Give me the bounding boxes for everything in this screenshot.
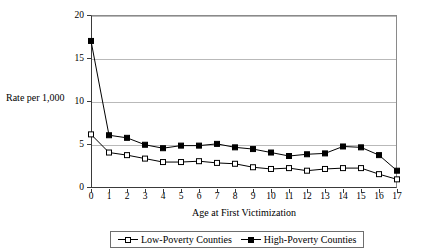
x-tick-label: 0 <box>82 192 100 202</box>
legend-item-low-poverty[interactable]: Low-Poverty Counties <box>118 234 232 245</box>
x-tick-mark <box>307 189 308 193</box>
legend-label: High-Poverty Counties <box>264 234 357 245</box>
x-tick-mark <box>361 189 362 193</box>
x-tick-label: 7 <box>208 192 226 202</box>
chart-container: Rate per 1,000 20 15 10 5 0 012345678910… <box>0 0 433 252</box>
x-tick-mark <box>127 189 128 193</box>
gridline <box>92 16 396 17</box>
x-tick-mark <box>181 189 182 193</box>
x-tick-mark <box>109 189 110 193</box>
x-tick-mark <box>271 189 272 193</box>
y-tick-mark <box>87 187 91 188</box>
y-tick-label: 5 <box>58 140 84 150</box>
plot-area <box>91 15 397 188</box>
x-tick-mark <box>325 189 326 193</box>
x-tick-label: 16 <box>370 192 388 202</box>
filled-square-marker-icon <box>241 235 261 244</box>
x-tick-mark <box>253 189 254 193</box>
x-tick-mark <box>217 189 218 193</box>
y-tick-label: 10 <box>58 97 84 107</box>
x-tick-mark <box>145 189 146 193</box>
y-tick-label: 0 <box>58 183 84 193</box>
x-tick-label: 6 <box>190 192 208 202</box>
x-tick-mark <box>199 189 200 193</box>
y-tick-label: 20 <box>58 11 84 21</box>
x-tick-label: 13 <box>316 192 334 202</box>
legend-item-high-poverty[interactable]: High-Poverty Counties <box>241 234 357 245</box>
y-axis-label: Rate per 1,000 <box>6 92 65 103</box>
y-tick-mark <box>87 101 91 102</box>
x-tick-label: 11 <box>280 192 298 202</box>
x-tick-label: 9 <box>244 192 262 202</box>
x-tick-label: 5 <box>172 192 190 202</box>
y-tick-mark <box>87 15 91 16</box>
x-tick-label: 14 <box>334 192 352 202</box>
x-tick-label: 2 <box>118 192 136 202</box>
open-square-marker-icon <box>118 235 138 244</box>
y-tick-mark <box>87 144 91 145</box>
x-tick-label: 12 <box>298 192 316 202</box>
x-tick-mark <box>343 189 344 193</box>
legend-label: Low-Poverty Counties <box>141 234 232 245</box>
x-tick-label: 8 <box>226 192 244 202</box>
x-tick-mark <box>91 189 92 193</box>
gridline <box>92 59 396 60</box>
x-tick-mark <box>163 189 164 193</box>
x-tick-label: 1 <box>100 192 118 202</box>
gridline <box>92 102 396 103</box>
x-tick-mark <box>235 189 236 193</box>
chart-legend: Low-Poverty Counties High-Poverty Counti… <box>110 231 364 248</box>
x-tick-mark <box>397 189 398 193</box>
x-tick-label: 4 <box>154 192 172 202</box>
x-tick-label: 15 <box>352 192 370 202</box>
gridline <box>92 145 396 146</box>
x-tick-mark <box>289 189 290 193</box>
x-tick-label: 17 <box>388 192 406 202</box>
y-tick-mark <box>87 58 91 59</box>
x-tick-label: 3 <box>136 192 154 202</box>
x-tick-label: 10 <box>262 192 280 202</box>
x-tick-mark <box>379 189 380 193</box>
x-axis-label: Age at First Victimization <box>91 207 397 218</box>
y-tick-label: 15 <box>58 54 84 64</box>
